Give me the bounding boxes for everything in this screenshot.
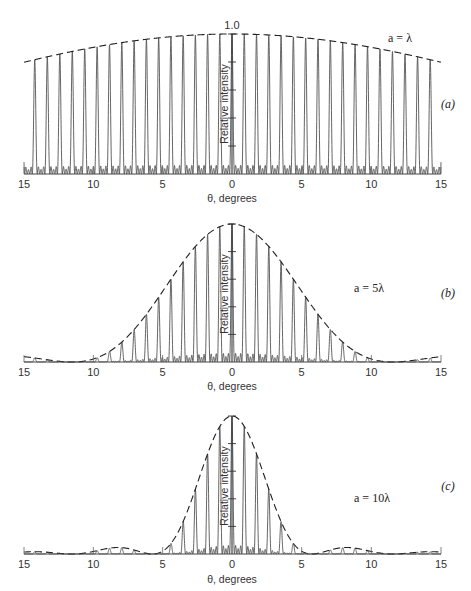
y-axis-label: Relative intensity — [218, 64, 230, 144]
x-tick-label: 0 — [229, 558, 235, 570]
x-tick-label: 10 — [87, 558, 99, 570]
x-tick-label: 5 — [160, 558, 166, 570]
x-tick-label: 10 — [87, 178, 99, 190]
x-tick-label: 15 — [18, 366, 30, 378]
panel-label: (c) — [441, 479, 454, 493]
x-tick-label: 15 — [435, 178, 447, 190]
panel-b: Relative intensity15105051015θ, degreesa… — [18, 224, 455, 392]
x-tick-label: 5 — [299, 366, 305, 378]
x-tick-label: 5 — [299, 558, 305, 570]
panel-c: Relative intensity15105051015θ, degreesa… — [18, 416, 455, 585]
x-tick-label: 15 — [18, 178, 30, 190]
x-tick-label: 5 — [160, 366, 166, 378]
panel-a: 1.0Relative intensity15105051015θ, degre… — [18, 19, 455, 204]
y-axis-label: Relative intensity — [218, 254, 230, 334]
slit-width-annotation: a = λ — [388, 31, 412, 45]
x-tick-label: 10 — [87, 366, 99, 378]
slit-width-annotation: a = 5λ — [354, 281, 384, 295]
x-tick-label: 15 — [435, 558, 447, 570]
x-tick-label: 15 — [18, 558, 30, 570]
x-axis-label: θ, degrees — [207, 380, 257, 392]
y-tick-label-top: 1.0 — [224, 19, 239, 31]
y-axis-label: Relative intensity — [218, 446, 230, 526]
x-tick-label: 5 — [160, 178, 166, 190]
panel-label: (a) — [441, 97, 455, 111]
x-tick-label: 10 — [365, 366, 377, 378]
panel-label: (b) — [441, 286, 455, 300]
slit-width-annotation: a = 10λ — [354, 491, 390, 505]
x-tick-label: 0 — [229, 178, 235, 190]
diffraction-figure: 1.0Relative intensity15105051015θ, degre… — [0, 0, 471, 591]
x-axis-label: θ, degrees — [207, 192, 257, 204]
x-axis-label: θ, degrees — [207, 573, 257, 585]
x-tick-label: 15 — [435, 366, 447, 378]
x-tick-label: 5 — [299, 178, 305, 190]
x-tick-label: 0 — [229, 366, 235, 378]
x-tick-label: 10 — [365, 178, 377, 190]
x-tick-label: 10 — [365, 558, 377, 570]
